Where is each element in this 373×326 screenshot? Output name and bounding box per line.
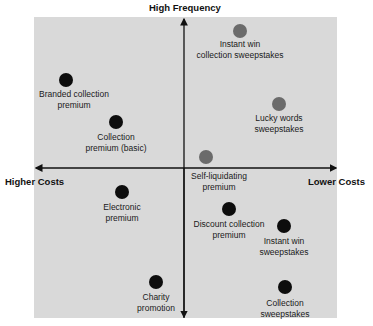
axis-label-lower-costs: Lower Costs: [308, 176, 365, 187]
axis-label-high-frequency: High Frequency: [149, 2, 221, 13]
label-line: promotion: [137, 303, 175, 314]
dot-instant-win-sweepstakes: [277, 219, 291, 233]
label-instant-win-collection-sweepstakes: Instant win collection sweepstakes: [197, 39, 284, 60]
dot-collection-premium-basic: [109, 115, 123, 129]
label-line: sweepstakes: [260, 309, 309, 320]
label-collection-sweepstakes: Collection sweepstakes: [260, 298, 309, 319]
label-collection-premium-basic: Collection premium (basic): [86, 132, 147, 153]
dot-self-liquidating-premium: [199, 150, 213, 164]
dot-instant-win-collection-sweepstakes: [233, 24, 247, 38]
label-line: Branded collection: [39, 89, 109, 100]
label-line: premium (basic): [86, 143, 147, 154]
label-line: Collection: [260, 298, 309, 309]
dot-branded-collection-premium: [59, 73, 73, 87]
label-self-liquidating-premium: Self-liquidating premium: [191, 171, 247, 192]
axis-label-higher-costs: Higher Costs: [5, 176, 64, 187]
label-line: premium: [39, 100, 109, 111]
label-branded-collection-premium: Branded collection premium: [39, 89, 109, 110]
label-line: premium: [191, 182, 247, 193]
label-line: premium: [194, 230, 265, 241]
dot-discount-collection-premium: [222, 202, 236, 216]
label-line: Electronic: [103, 202, 140, 213]
label-line: Instant win: [259, 236, 308, 247]
dot-lucky-words-sweepstakes: [272, 97, 286, 111]
dot-collection-sweepstakes: [278, 280, 292, 294]
label-line: Collection: [86, 132, 147, 143]
label-line: Self-liquidating: [191, 171, 247, 182]
dot-electronic-premium: [115, 185, 129, 199]
label-line: Charity: [137, 292, 175, 303]
label-lucky-words-sweepstakes: Lucky words sweepstakes: [254, 113, 303, 134]
label-charity-promotion: Charity promotion: [137, 292, 175, 313]
label-line: sweepstakes: [254, 124, 303, 135]
label-line: Discount collection: [194, 219, 265, 230]
dot-charity-promotion: [149, 275, 163, 289]
label-discount-collection-premium: Discount collection premium: [194, 219, 265, 240]
label-instant-win-sweepstakes: Instant win sweepstakes: [259, 236, 308, 257]
label-line: Lucky words: [254, 113, 303, 124]
label-line: collection sweepstakes: [197, 50, 284, 61]
label-line: sweepstakes: [259, 247, 308, 258]
label-electronic-premium: Electronic premium: [103, 202, 140, 223]
label-line: premium: [103, 213, 140, 224]
axes: [0, 0, 373, 326]
label-line: Instant win: [197, 39, 284, 50]
